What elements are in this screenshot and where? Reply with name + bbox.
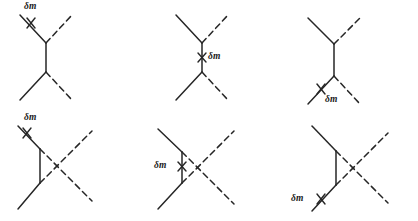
fermion-line-upper-left bbox=[176, 15, 202, 43]
counterterm-cross-icon bbox=[317, 84, 325, 94]
panel-4-canvas bbox=[0, 111, 139, 221]
fermion-line-upper-left bbox=[20, 15, 46, 43]
fermion-line-lower-left bbox=[176, 72, 202, 100]
fermion-line-upper-left bbox=[158, 129, 182, 152]
diagram-panel-4: δm bbox=[0, 111, 139, 221]
scalar-line-crossed-up bbox=[182, 131, 234, 183]
scalar-line-lower-right bbox=[46, 72, 72, 100]
scalar-line-crossed-down bbox=[182, 152, 234, 204]
scalar-line-upper-right bbox=[334, 18, 360, 44]
fermion-line-lower-left bbox=[18, 183, 40, 209]
panel-6-canvas bbox=[279, 111, 418, 221]
scalar-line-lower-right bbox=[334, 76, 360, 104]
diagram-panel-6: δm bbox=[279, 111, 418, 221]
fermion-line-lower-left bbox=[158, 183, 182, 209]
diagram-panel-2: δm bbox=[140, 0, 279, 110]
diagram-panel-1: δm bbox=[0, 0, 139, 110]
diagram-panel-5: δm bbox=[140, 111, 279, 221]
scalar-line-upper-right bbox=[46, 15, 72, 43]
feynman-diagram-figure: δm δm bbox=[0, 0, 418, 221]
counterterm-label-panel-3: δm bbox=[325, 95, 338, 105]
fermion-line-lower-left bbox=[312, 185, 336, 211]
counterterm-label-panel-6: δm bbox=[291, 194, 304, 204]
counterterm-label-panel-5: δm bbox=[154, 161, 167, 171]
fermion-line-upper-left bbox=[312, 126, 336, 151]
fermion-line-lower-left bbox=[20, 72, 46, 100]
panel-1-canvas bbox=[0, 0, 139, 110]
panel-3-canvas bbox=[279, 0, 418, 110]
scalar-line-lower-right bbox=[202, 72, 228, 100]
scalar-line-upper-right bbox=[202, 15, 228, 43]
counterterm-label-panel-2: δm bbox=[208, 52, 221, 62]
fermion-line-upper-left bbox=[308, 18, 334, 44]
diagram-panel-3: δm bbox=[279, 0, 418, 110]
counterterm-label-panel-1: δm bbox=[24, 2, 37, 12]
counterterm-label-panel-4: δm bbox=[24, 113, 37, 123]
